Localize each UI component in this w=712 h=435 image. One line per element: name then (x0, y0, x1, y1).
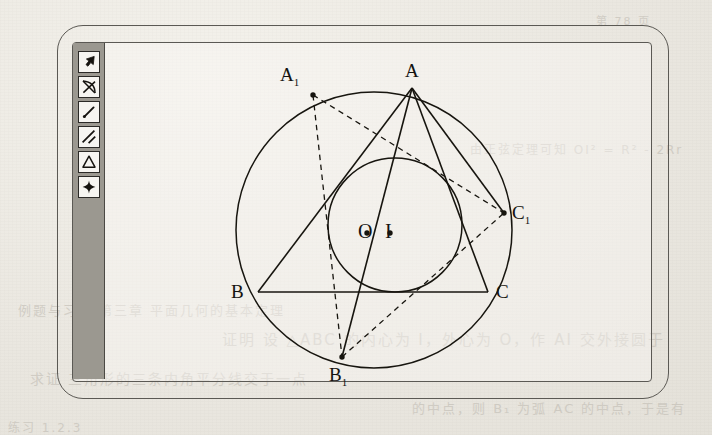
dashed-segment-group (313, 95, 504, 357)
dashed-segment-A1C1 (313, 95, 504, 213)
point-label-A: A (405, 61, 419, 80)
tool-button-point[interactable] (78, 176, 100, 198)
tool-button-segment[interactable] (78, 101, 100, 123)
point-label-O: O (358, 221, 372, 241)
point-label-C1: C1 (512, 203, 530, 226)
parallel-lines-icon (81, 129, 97, 145)
segment-AC1 (412, 88, 504, 213)
point-label-B1: B1 (329, 365, 347, 388)
arrow-cursor-icon (81, 54, 97, 70)
tool-button-select[interactable] (78, 51, 100, 73)
geometry-figure (105, 43, 649, 379)
tool-button-triangle[interactable] (78, 151, 100, 173)
drawing-canvas[interactable]: ABCA1B1C1OI (105, 43, 649, 379)
point-label-I: I (385, 221, 392, 241)
segment-AB1 (342, 88, 412, 357)
crossed-arc-icon (81, 79, 97, 95)
point-label-A1: A1 (280, 65, 299, 88)
point-label-C: C (496, 282, 509, 301)
triangle-icon (81, 154, 97, 170)
segment-AB (258, 88, 412, 292)
plus-point-icon (81, 179, 97, 195)
point-dot-C1[interactable] (501, 210, 506, 215)
incircle (328, 158, 462, 292)
tool-button-circle-arc[interactable] (78, 76, 100, 98)
point-dot-group (310, 92, 506, 359)
point-dot-A1[interactable] (310, 92, 315, 97)
dashed-segment-A1B1 (313, 95, 342, 357)
line-segment-icon (81, 104, 97, 120)
tool-button-parallel[interactable] (78, 126, 100, 148)
drawing-toolbar[interactable] (73, 43, 105, 379)
point-dot-B1[interactable] (339, 354, 344, 359)
point-label-B: B (231, 282, 244, 301)
